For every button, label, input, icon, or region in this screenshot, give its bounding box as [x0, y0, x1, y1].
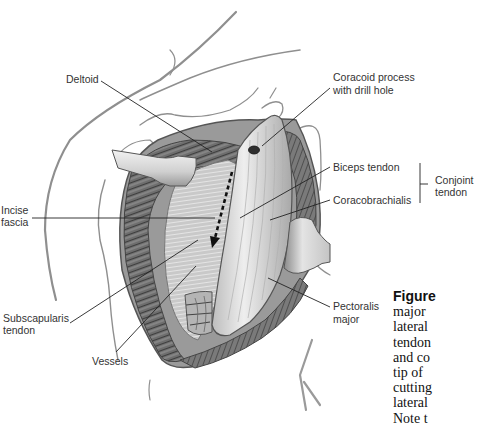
label-deltoid: Deltoid [66, 73, 99, 85]
label-conjoint-line2: tendon [435, 186, 467, 198]
label-subscapularis-line1: Subscapularis [3, 312, 69, 324]
label-coracoid-line1: Coracoid process [333, 71, 415, 83]
caption-line: lateral [393, 395, 477, 410]
figure-caption: Figure major lateral tendon and co tip o… [393, 289, 477, 426]
label-coracobrachialis: Coracobrachialis [333, 194, 411, 206]
leader-subscapularis [70, 240, 198, 323]
caption-line: lateral [393, 319, 477, 334]
caption-line: tip of [393, 365, 477, 380]
label-biceps-tendon: Biceps tendon [333, 161, 400, 173]
caption-line: and co [393, 350, 477, 365]
label-vessels: Vessels [92, 355, 128, 367]
label-pectoralis-line1: Pectoralis [333, 300, 379, 312]
caption-line: Note t [393, 411, 477, 426]
leader-biceps [240, 167, 330, 218]
caption-figure-word: Figure [393, 289, 477, 304]
caption-line: tendon [393, 335, 477, 350]
label-incise-line1: Incise [1, 204, 28, 216]
label-pectoralis-line2: major [333, 313, 359, 325]
caption-line: cutting [393, 380, 477, 395]
leader-vessels [116, 266, 196, 352]
label-subscapularis-line2: tendon [3, 324, 35, 336]
leader-pectoralis [268, 278, 330, 307]
label-conjoint-line1: Conjoint [435, 174, 474, 186]
label-incise-line2: fascia [1, 216, 28, 228]
leader-coracobrachialis [270, 200, 330, 220]
caption-line: major [393, 304, 477, 319]
leader-deltoid [101, 81, 212, 152]
leader-coracoid [262, 88, 330, 146]
label-coracoid-line2: with drill hole [333, 84, 394, 96]
